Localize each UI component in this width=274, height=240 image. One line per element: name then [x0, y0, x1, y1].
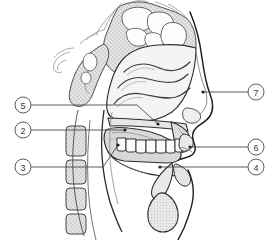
leader-target-dot: [188, 145, 191, 148]
vertebra: [66, 160, 86, 184]
callout-6[interactable]: 6: [188, 139, 264, 155]
leader-target-dot: [156, 122, 159, 125]
tooth: [126, 139, 136, 152]
nasal-vestibule: [183, 108, 201, 123]
callout-number: 4: [253, 163, 258, 173]
tooth: [156, 140, 166, 153]
lips: [179, 134, 193, 152]
larynx: [148, 193, 178, 232]
callout-number: 3: [20, 163, 25, 173]
tooth: [146, 140, 156, 153]
upper-teeth-row: [117, 138, 183, 153]
callout-number: 7: [253, 88, 258, 98]
anatomy-figure: 523764: [0, 0, 274, 240]
tooth: [136, 140, 146, 153]
leader-target-dot: [201, 90, 204, 93]
leader-target-dot: [123, 128, 126, 131]
sagittal-head-diagram: 523764: [0, 0, 274, 240]
leader-target-dot: [158, 165, 161, 168]
callout-number: 5: [20, 101, 25, 111]
callout-number: 6: [253, 143, 258, 153]
vertebra: [66, 126, 86, 156]
nasal-bone-wisps: [53, 48, 74, 73]
spinal-canal: [88, 120, 96, 240]
callout-number: 2: [20, 126, 25, 136]
cervical-vertebrae: [66, 126, 86, 234]
tooth: [166, 140, 175, 153]
leader-target-dot: [116, 143, 119, 146]
